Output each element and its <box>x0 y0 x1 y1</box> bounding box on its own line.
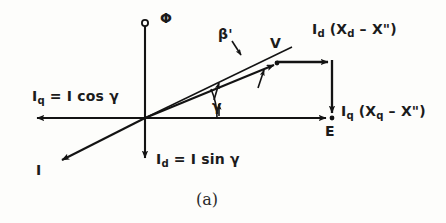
iq-cos-subscript: q <box>37 95 44 106</box>
e-phasor-label: E <box>325 124 335 138</box>
i-current-vector <box>62 118 145 160</box>
id-sin-subscript: d <box>161 158 168 169</box>
iq-xq-subscript: q <box>346 110 353 121</box>
v-point-marker <box>275 61 280 66</box>
id-sin-expr: = I sin γ <box>169 151 240 167</box>
iq-xq-expr2: – X") <box>384 103 426 119</box>
v-phasor-vector <box>145 65 274 118</box>
e-point-marker <box>330 116 335 121</box>
flux-axis-circle-marker <box>142 20 148 26</box>
i-current-label: I <box>36 163 41 177</box>
id-reactance-drop-label: Id (Xd – X") <box>312 22 397 39</box>
beta-label-pointer <box>232 41 241 55</box>
id-xd-subscript: d <box>317 28 324 39</box>
iq-cos-expr: = I cos γ <box>45 88 119 104</box>
id-xd-expr: (X <box>325 21 348 37</box>
id-xd-expr2: – X") <box>355 21 397 37</box>
gamma-angle-label: γ <box>212 99 222 113</box>
flux-axis-label: Φ <box>160 11 172 25</box>
id-xd-subscript2: d <box>347 28 354 39</box>
id-component-label: Id = I sin γ <box>156 152 240 169</box>
iq-component-label: Iq = I cos γ <box>32 89 119 106</box>
figure-caption: (a) <box>196 190 218 209</box>
iq-reactance-drop-label: Iq (Xq – X") <box>341 104 426 121</box>
iq-xq-expr: (X <box>354 103 377 119</box>
beta-angle-tick-outer <box>258 70 264 88</box>
phasor-diagram-figure: Φ β' V Id (Xd – X") Iq (Xq – X") E Iq = … <box>0 0 446 223</box>
iq-xq-subscript2: q <box>376 110 383 121</box>
v-phasor-label: V <box>270 36 281 50</box>
beta-prime-angle-label: β' <box>218 27 233 41</box>
